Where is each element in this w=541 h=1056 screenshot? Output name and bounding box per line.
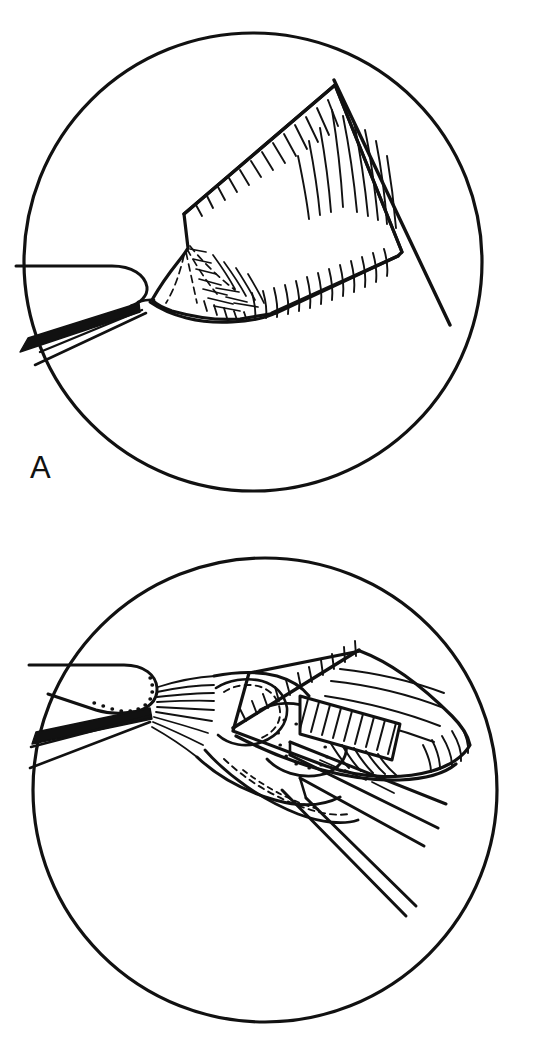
- panel-b-frame-circle: [33, 558, 497, 1022]
- figure-root: A: [0, 0, 541, 1056]
- panel-b: B: [0, 528, 541, 1056]
- panel-b-drawing: [0, 528, 541, 1056]
- panel-a-label: A: [30, 452, 51, 483]
- panel-a-drawing: [0, 0, 541, 528]
- panel-a: A: [0, 0, 541, 528]
